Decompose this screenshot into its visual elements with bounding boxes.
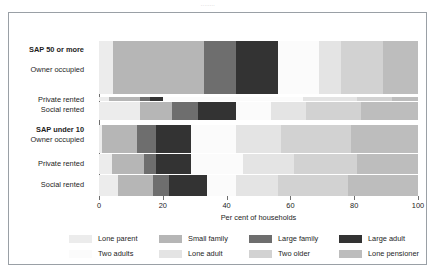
bar-segment xyxy=(281,125,351,153)
bar-segment xyxy=(153,175,169,196)
bar-segment xyxy=(169,175,207,196)
legend-item[interactable]: Small family xyxy=(159,232,249,245)
bar-segment xyxy=(306,102,360,120)
chart-screenshot: ........ SAP 50 or moreOwner occupiedPri… xyxy=(0,0,436,278)
y-label-social-rented-1: Social rented xyxy=(0,105,84,114)
bar-segment xyxy=(271,102,306,120)
bar-row xyxy=(99,41,418,94)
bar-segment xyxy=(278,41,319,94)
x-tick xyxy=(227,196,228,200)
bar-segment xyxy=(383,41,418,94)
bar-segment xyxy=(351,125,418,153)
y-label-social-rented-2: Social rented xyxy=(0,180,84,189)
x-tick-label: 100 xyxy=(403,201,433,210)
x-tick-label: 60 xyxy=(275,201,305,210)
legend-item[interactable]: Large adult xyxy=(339,232,429,245)
bar-segment xyxy=(112,154,144,174)
legend-swatch xyxy=(69,250,92,258)
bar-segment xyxy=(140,97,150,101)
bar-segment xyxy=(118,175,153,196)
legend-swatch xyxy=(339,250,362,258)
legend-row-bottom: Two adultsLone adultTwo olderLone pensio… xyxy=(69,247,429,260)
bar-segment xyxy=(99,175,118,196)
legend-swatch xyxy=(159,235,182,243)
bar-segment xyxy=(236,175,277,196)
legend-label: Two adults xyxy=(98,249,133,258)
bar-segment xyxy=(109,97,141,101)
legend-item[interactable]: Lone adult xyxy=(159,247,249,260)
y-label-owner-occupied-2: Owner occupied xyxy=(0,135,84,144)
bar-segment xyxy=(236,125,281,153)
x-tick xyxy=(163,196,164,200)
x-tick xyxy=(290,196,291,200)
legend-label: Two older xyxy=(278,249,310,258)
bar-segment xyxy=(207,175,236,196)
bar-segment xyxy=(294,154,358,174)
bar-segment xyxy=(99,97,109,101)
bar-segment xyxy=(357,97,392,101)
legend: Lone parentSmall familyLarge familyLarge… xyxy=(69,232,429,266)
legend-swatch xyxy=(249,250,272,258)
bar-segment xyxy=(150,97,163,101)
bar-segment xyxy=(341,41,382,94)
bar-segment xyxy=(144,154,157,174)
legend-label: Lone pensioner xyxy=(368,249,419,258)
y-group-label-sapunder10: SAP under 10 xyxy=(0,125,84,134)
bar-segment xyxy=(191,154,242,174)
bar-segment xyxy=(113,41,204,94)
legend-label: Large family xyxy=(278,234,318,243)
bar-segment xyxy=(102,125,137,153)
bar-segment xyxy=(99,154,112,174)
legend-row-top: Lone parentSmall familyLarge familyLarge… xyxy=(69,232,429,245)
bar-segment xyxy=(236,102,271,120)
bar-segment xyxy=(392,97,418,101)
bar-segment xyxy=(172,102,198,120)
bar-row xyxy=(99,102,418,120)
bar-segment xyxy=(348,175,418,196)
legend-label: Lone parent xyxy=(98,234,137,243)
bar-segment xyxy=(303,97,357,101)
bar-segment xyxy=(243,154,294,174)
bar-segment xyxy=(156,125,191,153)
y-label-private-rented-2: Private rented xyxy=(0,159,84,168)
x-tick-label: 0 xyxy=(84,201,114,210)
legend-item[interactable]: Lone parent xyxy=(69,232,159,245)
chart-frame: SAP 50 or moreOwner occupiedPrivate rent… xyxy=(8,12,427,265)
x-tick-label: 40 xyxy=(212,201,242,210)
bar-segment xyxy=(361,102,418,120)
x-tick xyxy=(418,196,419,200)
legend-item[interactable]: Large family xyxy=(249,232,339,245)
x-tick-label: 80 xyxy=(339,201,369,210)
bar-row xyxy=(99,125,418,153)
bar-segment xyxy=(163,97,303,101)
bar-segment xyxy=(191,125,236,153)
x-tick xyxy=(354,196,355,200)
legend-label: Lone adult xyxy=(188,249,223,258)
bar-segment xyxy=(99,41,113,94)
legend-swatch xyxy=(69,235,92,243)
legend-label: Small family xyxy=(188,234,228,243)
bar-segment xyxy=(156,154,191,174)
bar-segment xyxy=(204,41,236,94)
legend-item[interactable]: Two adults xyxy=(69,247,159,260)
bar-row xyxy=(99,97,418,101)
bar-row xyxy=(99,175,418,196)
legend-label: Large adult xyxy=(368,234,405,243)
bar-segment xyxy=(198,102,236,120)
legend-item[interactable]: Two older xyxy=(249,247,339,260)
bar-segment xyxy=(99,102,140,120)
bar-segment xyxy=(278,175,348,196)
bar-segment xyxy=(236,41,277,94)
x-tick xyxy=(99,196,100,200)
legend-swatch xyxy=(159,250,182,258)
x-tick-label: 20 xyxy=(148,201,178,210)
y-group-label-sap50: SAP 50 or more xyxy=(0,45,84,54)
bar-row xyxy=(99,154,418,174)
x-axis-title: Per cent of households xyxy=(99,213,418,222)
top-caption-fragment: ........ xyxy=(148,1,268,9)
y-label-owner-occupied-1: Owner occupied xyxy=(0,65,84,74)
legend-swatch xyxy=(339,235,362,243)
legend-item[interactable]: Lone pensioner xyxy=(339,247,429,260)
legend-swatch xyxy=(249,235,272,243)
bar-segment xyxy=(140,102,172,120)
